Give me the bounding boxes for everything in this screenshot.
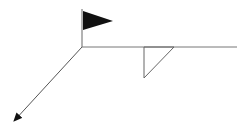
hanging-triangle (144, 47, 174, 78)
diagram-canvas (0, 0, 251, 125)
diagram-svg (0, 0, 251, 125)
diagonal-arrow (14, 47, 82, 121)
flag-icon (83, 11, 113, 30)
